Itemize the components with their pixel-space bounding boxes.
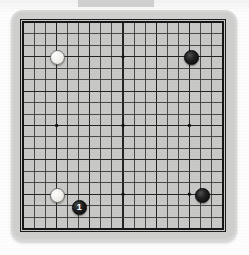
stone-move-number: 1 <box>73 201 86 214</box>
white-stone[interactable] <box>50 50 65 65</box>
star-point <box>121 124 124 127</box>
star-point <box>188 124 191 127</box>
black-stone[interactable] <box>184 50 199 65</box>
go-board-surface[interactable]: 1 <box>20 19 226 232</box>
scan-artifact-bar <box>78 0 154 7</box>
star-point <box>188 192 191 195</box>
black-stone[interactable]: 1 <box>72 200 87 215</box>
white-stone[interactable] <box>50 188 65 203</box>
star-point <box>55 124 58 127</box>
star-point <box>121 55 124 58</box>
black-stone[interactable] <box>195 188 210 203</box>
star-point <box>121 192 124 195</box>
